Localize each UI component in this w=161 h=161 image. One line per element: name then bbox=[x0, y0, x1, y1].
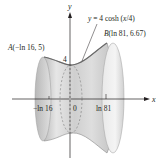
x-axis-arrow-icon bbox=[144, 97, 150, 101]
y-tick-4: 4 bbox=[63, 55, 67, 64]
figure-canvas: x y −ln 16 0 ln 81 4 A(−ln 16, 5) B(ln 8… bbox=[0, 0, 161, 161]
point-a-label: A(−ln 16, 5) bbox=[7, 43, 45, 52]
x-tick-zero: 0 bbox=[73, 104, 77, 113]
x-axis-label: x bbox=[151, 95, 156, 104]
x-tick-neg-ln16: −ln 16 bbox=[33, 104, 53, 113]
y-axis-label: y bbox=[67, 2, 72, 11]
right-rim bbox=[102, 43, 124, 153]
curve-equation-label: y = 4 cosh (x/4) bbox=[87, 14, 135, 23]
x-tick-ln81: ln 81 bbox=[96, 104, 111, 113]
point-b-label: B(ln 81, 6.67) bbox=[104, 29, 146, 38]
y-axis-arrow-icon bbox=[68, 12, 72, 18]
